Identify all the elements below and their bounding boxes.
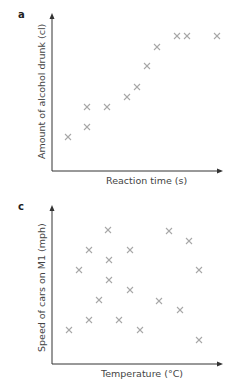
data-point-x-marker — [196, 337, 202, 343]
x-axis-arrow-icon — [217, 169, 223, 174]
data-point-x-marker — [214, 33, 220, 39]
data-point-x-marker — [127, 247, 133, 253]
data-point-x-marker — [174, 33, 180, 39]
data-point-x-marker — [137, 327, 143, 333]
x-axis-arrow-icon — [217, 362, 223, 367]
data-point-x-marker — [104, 104, 110, 110]
chart-panel-a: a Reaction time (s) Amount of alcohol dr… — [0, 0, 244, 192]
data-point-x-marker — [76, 267, 82, 273]
data-point-x-marker — [106, 257, 112, 263]
x-axis-label-a: Reaction time (s) — [106, 175, 187, 186]
data-point-x-marker — [86, 247, 92, 253]
data-point-x-marker — [106, 277, 112, 283]
y-axis-arrow-icon — [50, 13, 55, 19]
data-point-x-marker — [105, 227, 111, 233]
y-axis-arrow-icon — [50, 205, 55, 211]
y-axis-label-a: Amount of alcohol drunk (cl) — [36, 24, 47, 159]
data-point-x-marker — [65, 134, 71, 140]
data-point-x-marker — [186, 238, 192, 244]
data-point-x-marker — [156, 298, 162, 304]
panel-label-a: a — [18, 9, 25, 20]
data-point-x-marker — [127, 287, 133, 293]
data-point-x-marker — [177, 307, 183, 313]
chart-panel-c: c Temperature (°C) Speed of cars on M1 (… — [0, 192, 244, 384]
data-point-x-marker — [86, 317, 92, 323]
data-point-x-marker — [66, 327, 72, 333]
data-point-x-marker — [124, 94, 130, 100]
data-point-x-marker — [166, 228, 172, 234]
data-point-x-marker — [84, 104, 90, 110]
data-point-x-marker — [84, 124, 90, 130]
data-point-x-marker — [96, 297, 102, 303]
data-point-x-marker — [144, 63, 150, 69]
data-point-x-marker — [196, 267, 202, 273]
panel-label-c: c — [18, 201, 24, 212]
y-axis-label-c: Speed of cars on M1 (mph) — [36, 223, 47, 352]
x-axis-label-c: Temperature (°C) — [101, 368, 183, 379]
data-point-x-marker — [116, 317, 122, 323]
data-point-x-marker — [134, 84, 140, 90]
data-point-x-marker — [154, 44, 160, 50]
data-point-x-marker — [184, 33, 190, 39]
